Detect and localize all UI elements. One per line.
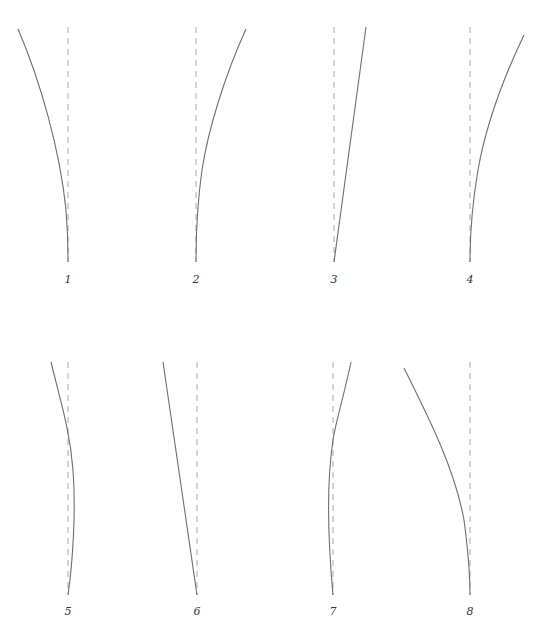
- curve-line: [196, 29, 246, 262]
- panel-1: 1: [18, 27, 72, 286]
- panel-number-label: 5: [65, 605, 72, 618]
- curve-line: [334, 27, 366, 262]
- panel-2: 2: [192, 27, 247, 286]
- panel-number-label: 7: [330, 605, 337, 618]
- panel-number-label: 3: [331, 273, 338, 286]
- curve-line: [51, 362, 74, 595]
- panel-8: 8: [404, 362, 474, 618]
- panel-7: 7: [329, 362, 352, 618]
- panel-number-label: 8: [467, 605, 474, 618]
- curve-line: [329, 362, 352, 595]
- curve-line: [404, 368, 470, 595]
- curve-line: [163, 362, 197, 595]
- panel-5: 5: [51, 362, 74, 618]
- panel-6: 6: [163, 362, 201, 618]
- stem-curvature-diagram: 12345678: [0, 0, 536, 620]
- curve-line: [470, 35, 524, 262]
- panel-3: 3: [331, 27, 367, 286]
- panel-4: 4: [466, 27, 525, 286]
- curve-line: [18, 29, 68, 262]
- panel-number-label: 1: [65, 273, 72, 286]
- panel-number-label: 6: [194, 605, 201, 618]
- panel-number-label: 2: [192, 273, 200, 286]
- panel-number-label: 4: [466, 273, 474, 286]
